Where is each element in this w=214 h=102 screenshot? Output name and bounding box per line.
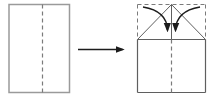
origami-diagram-canvas [0,0,214,102]
left-fold-motion-arrow [143,7,168,30]
step-2-panel [138,5,206,93]
step-1-panel [9,5,70,93]
right-fold-motion-arrow [176,7,201,30]
origami-fold-diagram [0,0,214,102]
sheet-outline [9,5,70,93]
